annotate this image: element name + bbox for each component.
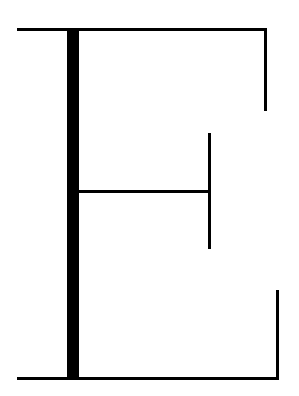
stem bbox=[67, 28, 79, 380]
top-bar bbox=[17, 28, 267, 31]
bottom-right-serif bbox=[276, 290, 279, 380]
middle-bar bbox=[79, 190, 210, 193]
top-right-serif bbox=[264, 28, 267, 111]
bottom-bar bbox=[17, 377, 279, 380]
letter-e-figure bbox=[0, 0, 299, 396]
middle-serif bbox=[208, 133, 211, 249]
